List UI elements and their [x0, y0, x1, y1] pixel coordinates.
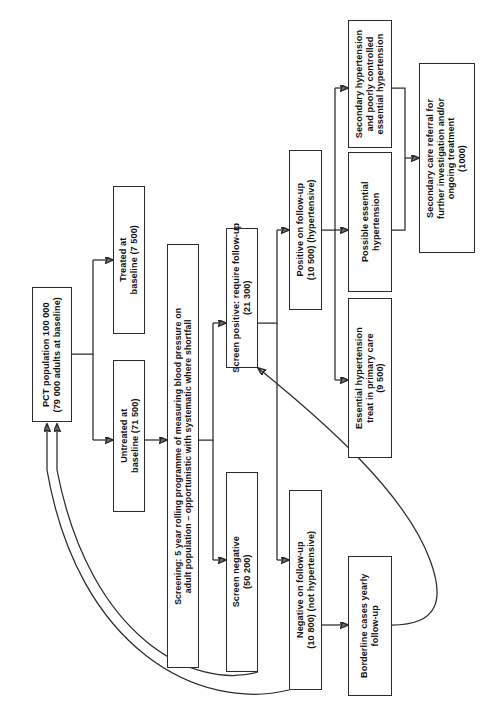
node-essential-primary-care-label: Essential hypertension treat in primary …	[354, 327, 386, 429]
node-treated-baseline-label: Treated at baseline (7 500)	[118, 225, 139, 294]
node-screen-positive-label: Screen positive: require follow-up (21 3…	[231, 223, 252, 373]
edge-screening-to-screen-positive	[199, 323, 226, 440]
node-secondary-care-referral[interactable]: Secondary care referral for further inve…	[419, 63, 475, 253]
flowchart-canvas: PCT population 100 000 (79 000 adults at…	[0, 0, 495, 720]
node-essential-primary-care[interactable]: Essential hypertension treat in primary …	[348, 298, 392, 458]
node-possible-essential[interactable]: Possible essential hypertension	[348, 152, 392, 292]
edge-merge-to-secondary-care-referral	[392, 88, 419, 230]
node-screening-label: Screening: 5 year rolling programme of m…	[173, 308, 194, 605]
node-negative-follow-up[interactable]: Negative on follow-up (10 800) (not hype…	[289, 490, 322, 690]
node-positive-follow-up[interactable]: Positive on follow-up (10 500) (hyperten…	[289, 150, 322, 310]
node-secondary-poorly-controlled[interactable]: Secondary hypertension and poorly contro…	[348, 20, 392, 148]
node-positive-follow-up-label: Positive on follow-up (10 500) (hyperten…	[295, 180, 316, 281]
edge-positive-follow-up-to-essential-primary-care	[322, 230, 348, 380]
node-secondary-care-referral-label: Secondary care referral for further inve…	[426, 97, 469, 218]
node-possible-essential-label: Possible essential hypertension	[359, 182, 380, 263]
node-borderline-cases-label: Borderline cases yearly follow-up	[359, 574, 380, 678]
edge-pct-to-untreated	[93, 354, 113, 440]
node-screening[interactable]: Screening: 5 year rolling programme of m…	[167, 244, 199, 668]
node-borderline-cases[interactable]: Borderline cases yearly follow-up	[348, 556, 392, 696]
node-screen-negative[interactable]: Screen negative (50 200)	[226, 472, 258, 672]
node-untreated-baseline[interactable]: Untreated at baseline (71 500)	[113, 360, 145, 512]
edge-screening-to-screen-negative	[213, 440, 226, 560]
node-screen-positive[interactable]: Screen positive: require follow-up (21 3…	[226, 228, 258, 368]
node-pct-population[interactable]: PCT population 100 000 (79 000 adults at…	[32, 287, 72, 422]
edge-screen-positive-to-negative-follow-up	[277, 323, 289, 560]
node-negative-follow-up-label: Negative on follow-up (10 800) (not hype…	[295, 531, 316, 649]
edge-pct-to-treated	[72, 260, 113, 354]
node-secondary-poorly-controlled-label: Secondary hypertension and poorly contro…	[354, 30, 386, 138]
node-untreated-baseline-label: Untreated at baseline (71 500)	[118, 399, 139, 474]
node-treated-baseline[interactable]: Treated at baseline (7 500)	[113, 186, 145, 334]
edge-screen-positive-to-positive-follow-up	[258, 230, 289, 323]
edge-positive-follow-up-to-secondary-poorly-controlled	[335, 88, 348, 230]
node-pct-population-label: PCT population 100 000 (79 000 adults at…	[41, 297, 62, 412]
node-screen-negative-label: Screen negative (50 200)	[231, 536, 252, 607]
